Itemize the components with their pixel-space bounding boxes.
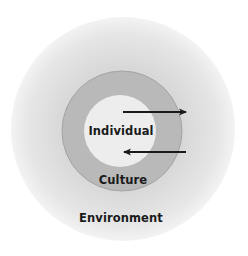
diagram-canvas: Individual Culture Environment (0, 0, 248, 256)
individual-label: Individual (88, 124, 153, 138)
culture-label: Culture (99, 173, 147, 187)
environment-label: Environment (79, 211, 163, 225)
